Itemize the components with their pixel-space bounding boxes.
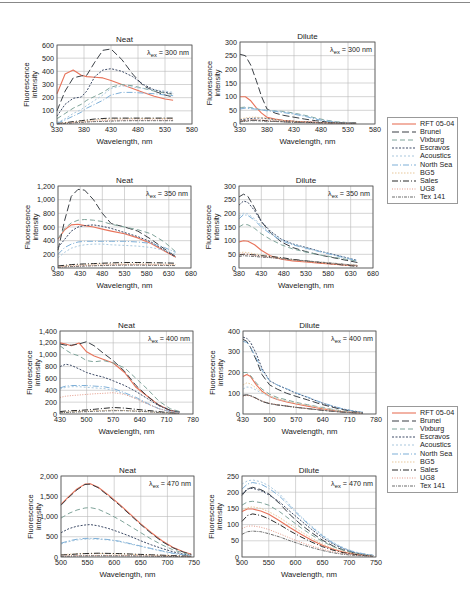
series-line-tex-141 [243,395,363,413]
x-tick-label: 580 [369,125,381,134]
legend-swatch-icon [391,442,417,448]
x-tick-label: 480 [315,125,327,134]
y-axis-label: Fluorescenceintensity [205,61,222,105]
y-axis-label: Fluorescenceintensity [207,494,224,538]
y-tick-label: 200 [224,209,236,218]
y-tick-label: 0 [53,410,57,419]
series-line-escravos [242,488,373,555]
y-tick-label: 800 [43,209,55,218]
y-tick-label: 400 [43,236,55,245]
legend-swatch-icon [391,162,417,168]
x-tick-label: 780 [370,415,382,424]
series-line-sales [242,514,373,556]
y-tick-label: 100 [42,106,54,115]
x-axis-label: Wavelength, nm [96,281,152,290]
y-tick-label: 200 [225,65,237,74]
chart-title: Dilute [296,176,317,185]
y-tick-label: 600 [45,374,57,383]
y-tick-label: 50 [228,250,236,259]
y-tick-label: 500 [46,532,58,541]
x-axis-label: Wavelength, nm [278,281,334,290]
x-tick-label: 480 [278,269,290,278]
x-tick-label: 550 [263,558,275,567]
series-line-vixburg [242,501,373,555]
legend-swatch-icon [391,451,417,457]
legend-entry: Tex 141 [391,193,454,201]
y-tick-label: 800 [45,362,57,371]
series-line-escravos [60,364,180,412]
y-tick-label: 150 [225,79,237,88]
y-tick-label: 100 [225,92,237,101]
y-tick-label: 50 [229,106,237,115]
series-line-acoustics [239,213,357,260]
series-line-sales [60,408,180,414]
y-tick-label: 400 [42,67,54,76]
y-tick-label: 1,200 [37,182,55,191]
x-axis-label: Wavelength, nm [281,427,337,436]
x-tick-label: 530 [159,125,171,134]
x-tick-label: 630 [163,269,175,278]
x-tick-label: 480 [132,125,144,134]
x-tick-label: 650 [316,558,328,567]
y-tick-label: 0 [232,264,236,273]
series-line-brunei [242,487,373,555]
series-line-rft-05-04 [243,375,363,413]
series-line-north-sea [60,386,180,413]
legend-label: Tex 141 [420,482,445,490]
legend-bottom: RFT 05-04BruneiVixburgEscravosAcousticsN… [387,406,458,493]
x-tick-label: 430 [255,269,267,278]
legend-swatch-icon [391,483,417,489]
y-tick-label: 400 [228,327,240,336]
x-tick-label: 430 [288,125,300,134]
legend-swatch-icon [391,467,417,473]
excitation-annotation: λex = 350 nm [328,189,370,199]
legend-swatch-icon [391,186,417,192]
x-tick-label: 750 [370,558,382,567]
x-axis-label: Wavelength, nm [98,427,154,436]
x-tick-label: 500 [81,415,93,424]
y-tick-label: 0 [236,410,240,419]
chart-title: Dilute [299,321,320,330]
excitation-annotation: λex = 350 nm [146,189,188,199]
legend-swatch-icon [391,170,417,176]
chart-panel-7: 50055060065070075005001,0001,5002,000Nea… [26,466,201,579]
series-line-escravos [58,225,176,257]
legend-top: RFT 05-04BruneiVixburgEscravosAcousticsN… [387,117,458,204]
x-tick-label: 570 [290,415,302,424]
x-tick-label: 430 [74,269,86,278]
series-line-tex-141 [57,121,173,124]
y-tick-label: 1,500 [40,492,58,501]
chart-title: Neat [119,466,137,475]
x-tick-label: 600 [290,558,302,567]
x-tick-label: 600 [108,558,120,567]
y-tick-label: 300 [224,182,236,191]
x-tick-label: 700 [161,558,173,567]
y-tick-label: 0 [233,120,237,129]
series-line-rft-05-04 [61,484,191,555]
excitation-annotation: λex = 400 nm [148,334,190,344]
y-tick-label: 250 [225,51,237,60]
x-tick-label: 500 [264,415,276,424]
excitation-annotation: λex = 400 nm [331,334,373,344]
y-tick-label: 300 [42,80,54,89]
y-tick-label: 200 [42,93,54,102]
y-tick-label: 250 [224,195,236,204]
legend-label: Tex 141 [420,193,445,201]
chart-panel-4: 380430480530580630680050100150200250300D… [204,176,380,290]
y-axis-label: Fluorescenceintensity [23,205,40,249]
x-tick-label: 480 [96,269,108,278]
series-line-brunei [240,54,356,123]
chart-panel-2: 330380430480530580050100150200250300Dilu… [205,32,382,146]
x-axis-label: Wavelength, nm [99,570,155,579]
y-tick-label: 150 [227,504,239,513]
x-tick-label: 530 [300,269,312,278]
excitation-annotation: λex = 470 nm [149,479,191,489]
series-line-rft-05-04 [57,70,173,100]
legend-swatch-icon [391,194,417,200]
x-tick-label: 570 [107,415,119,424]
x-tick-label: 430 [105,125,117,134]
figure-canvas: 3303804304805305800100200300400500600Nea… [0,0,470,606]
y-tick-label: 300 [228,347,240,356]
series-line-north-sea [242,483,373,556]
x-tick-label: 580 [186,125,198,134]
